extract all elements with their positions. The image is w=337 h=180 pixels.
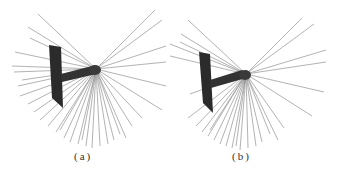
panel-b: (b) [168, 0, 336, 180]
caption-a: (a) [74, 150, 92, 162]
panel-a: (a) [0, 0, 168, 180]
hub-shape [89, 65, 101, 75]
radiating-lines [12, 10, 166, 148]
plate-shape [49, 45, 63, 108]
radiating-lines [170, 18, 326, 150]
figure-b-render [168, 0, 337, 180]
caption-b: (b) [232, 150, 251, 162]
hub-shape [239, 70, 251, 80]
